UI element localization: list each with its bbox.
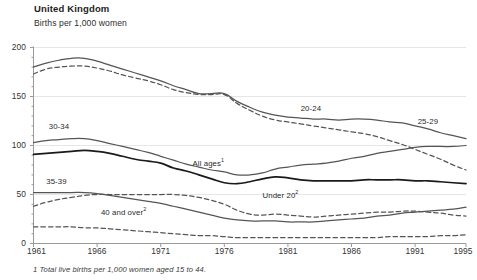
x-tick-label: 1966 — [77, 246, 117, 256]
footnote-marker: 2 — [295, 190, 298, 196]
series-label-35-39: 35-39 — [46, 177, 66, 186]
series-line-20-24 — [34, 66, 467, 170]
x-tick-label: 1961 — [17, 246, 57, 256]
series-label-under-20: Under 202 — [262, 191, 298, 200]
x-tick-label: 1981 — [268, 246, 308, 256]
footnote-marker: 1 — [221, 158, 224, 164]
x-tick-label: 1995 — [443, 246, 477, 256]
series-label-text: All ages — [193, 159, 222, 168]
series-label-25-29: 25-29 — [418, 117, 438, 126]
y-tick-label: 200 — [0, 42, 26, 52]
axis-ticks — [30, 48, 466, 248]
chart-canvas — [0, 0, 471, 262]
series-line-25-29 — [34, 58, 467, 139]
series-label-20-24: 20-24 — [301, 104, 321, 113]
series-line-40-and-over — [34, 227, 467, 238]
series-label-text: 40 and over — [101, 208, 143, 217]
series-label-text: Under 20 — [262, 191, 295, 200]
series-label-text: 35-39 — [46, 177, 66, 186]
x-tick-label: 1986 — [332, 246, 372, 256]
series-label-text: 25-29 — [418, 117, 438, 126]
series-label-all-ages: All ages1 — [193, 159, 225, 168]
plot-area — [0, 0, 471, 262]
series-line-30-34 — [34, 138, 467, 175]
x-tick-label: 1991 — [395, 246, 435, 256]
series-line-all-ages — [34, 150, 467, 183]
gridlines — [34, 48, 467, 195]
series-label-40-and-over: 40 and over2 — [101, 208, 146, 217]
footnote: 1 Total live births per 1,000 women aged… — [33, 265, 206, 274]
y-tick-label: 100 — [0, 140, 26, 150]
x-tick-label: 1971 — [141, 246, 181, 256]
y-tick-label: 150 — [0, 91, 26, 101]
series-label-text: 20-24 — [301, 104, 321, 113]
x-tick-label: 1976 — [204, 246, 244, 256]
series-label-text: 30-34 — [49, 122, 69, 131]
footnote-marker: 2 — [143, 207, 146, 213]
series-label-30-34: 30-34 — [49, 122, 69, 131]
y-tick-label: 50 — [0, 189, 26, 199]
series-line-35-39 — [34, 192, 467, 222]
series-paths — [34, 58, 467, 238]
